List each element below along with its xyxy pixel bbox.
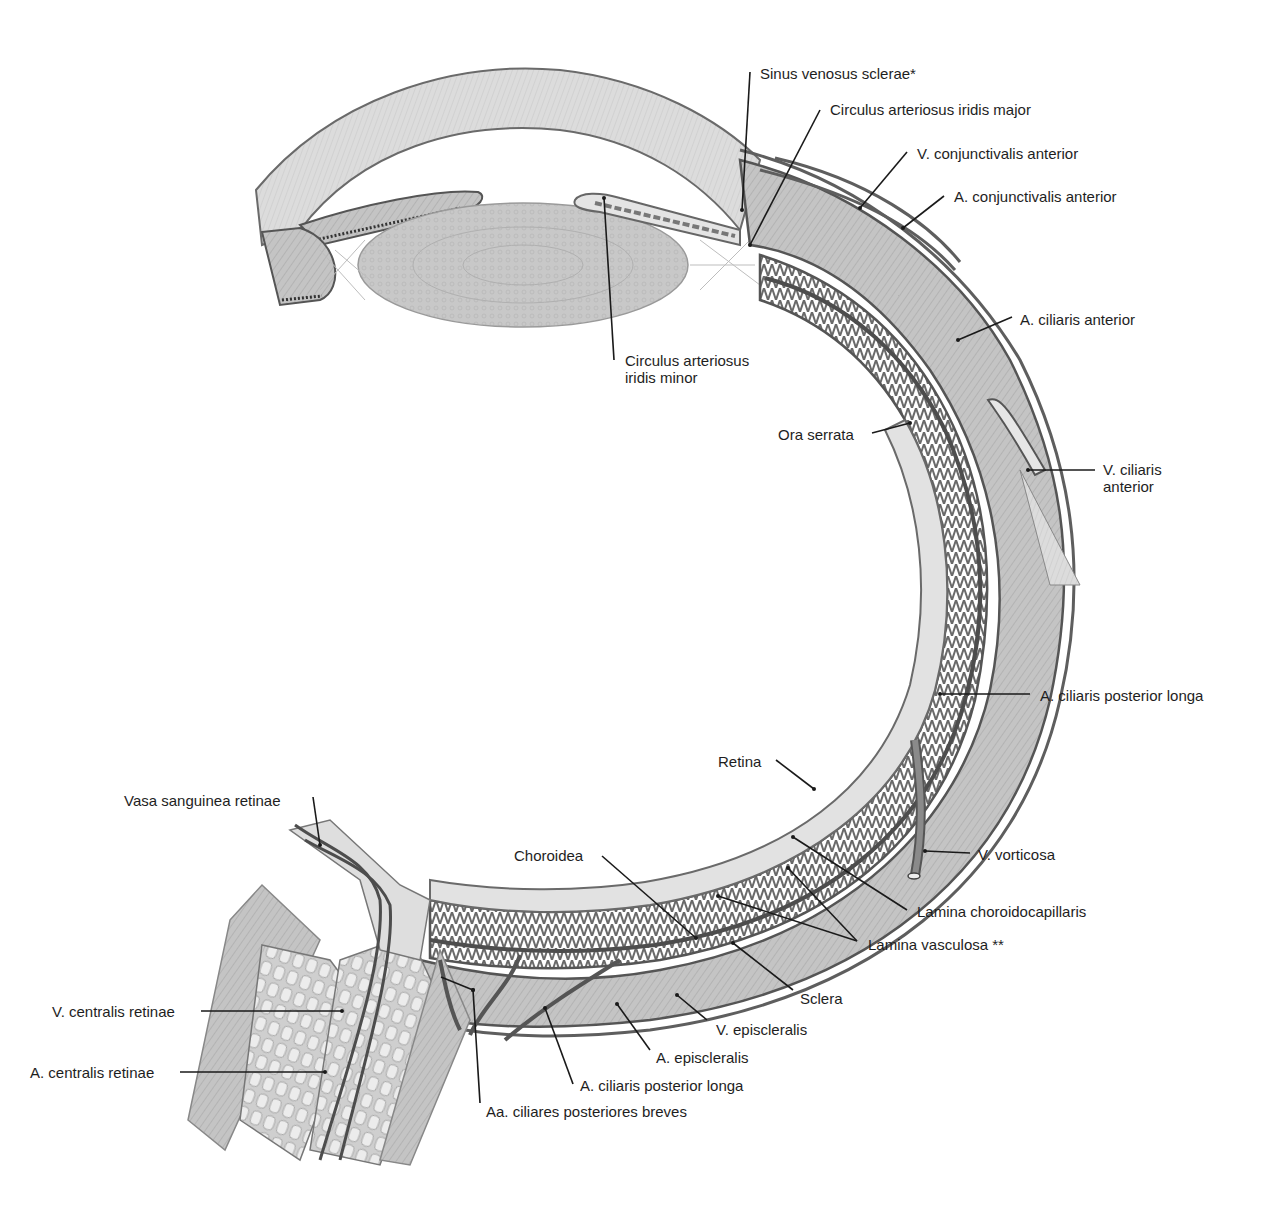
eye-vascular-diagram	[0, 0, 1264, 1205]
label-v-conjunctivalis-anterior: V. conjunctivalis anterior	[917, 145, 1078, 162]
label-v-vorticosa: V. vorticosa	[978, 846, 1055, 863]
label-a-episcleralis: A. episcleralis	[656, 1049, 749, 1066]
label-a-ciliaris-posterior-longa-bottom: A. ciliaris posterior longa	[580, 1077, 743, 1094]
label-a-ciliaris-posterior-longa-right: A. ciliaris posterior longa	[1040, 687, 1203, 704]
label-v-centralis-retinae: V. centralis retinae	[52, 1003, 175, 1020]
label-a-conjunctivalis-anterior: A. conjunctivalis anterior	[954, 188, 1117, 205]
label-circulus-arteriosus-iridis-major: Circulus arteriosus iridis major	[830, 101, 1031, 118]
label-sinus-venosus-sclerae: Sinus venosus sclerae*	[760, 65, 916, 82]
label-v-episcleralis: V. episcleralis	[716, 1021, 807, 1038]
leader-line-a-conjunctivalis-anterior	[903, 196, 944, 228]
label-aa-ciliares-posteriores-breves: Aa. ciliares posteriores breves	[486, 1103, 687, 1120]
label-ora-serrata: Ora serrata	[778, 426, 854, 443]
label-sclera: Sclera	[800, 990, 843, 1007]
label-retina: Retina	[718, 753, 761, 770]
label-vasa-sanguinea-retinae: Vasa sanguinea retinae	[124, 792, 281, 809]
label-circulus-arteriosus-iridis-minor: Circulus arteriosus iridis minor	[625, 352, 749, 386]
label-lamina-vasculosa: Lamina vasculosa **	[868, 936, 1004, 953]
label-a-ciliaris-anterior: A. ciliaris anterior	[1020, 311, 1135, 328]
label-a-centralis-retinae: A. centralis retinae	[30, 1064, 154, 1081]
label-lamina-choroidocapillaris: Lamina choroidocapillaris	[917, 903, 1086, 920]
optic-nerve	[188, 820, 470, 1165]
leader-line-retina	[776, 760, 814, 789]
label-v-ciliaris-anterior: V. ciliaris anterior	[1103, 461, 1162, 495]
label-choroidea: Choroidea	[514, 847, 583, 864]
